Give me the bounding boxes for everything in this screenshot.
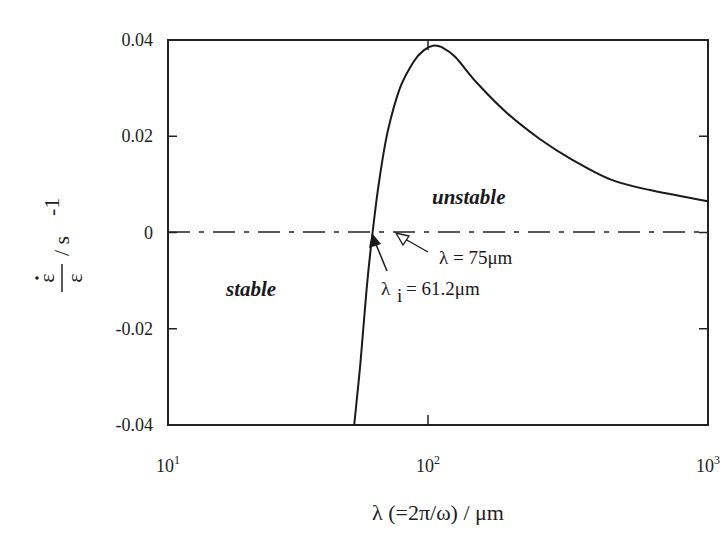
lambda-i-arrow-head-icon: [369, 233, 381, 248]
y-axis-unit: / s: [49, 236, 74, 256]
x-tick-label: 103: [696, 453, 720, 476]
lambda-75-arrow-shaft: [405, 239, 428, 252]
y-axis-unit-exponent: -1: [39, 198, 64, 216]
chart: 0.040.020-0.02-0.04 101102103 unstable s…: [0, 0, 724, 546]
y-tick-label: 0: [144, 223, 153, 243]
x-axis-title: λ (=2π/ω) / μm: [372, 500, 504, 525]
stable-region-label: stable: [225, 277, 276, 301]
lambda-i-label: λ i = 61.2μm: [381, 278, 480, 306]
x-tick-label: 101: [156, 453, 180, 476]
svg-text:i: i: [397, 285, 402, 306]
lambda-75-arrow-head-icon: [396, 233, 409, 245]
lambda-75-label: λ = 75μm: [439, 247, 513, 268]
x-axis-ticks: 101102103: [156, 40, 720, 476]
y-tick-label: 0.04: [122, 30, 154, 50]
lambda-i-arrow-shaft: [375, 242, 387, 271]
dot-accent-icon: [35, 276, 39, 280]
y-axis-denominator: ε: [62, 273, 87, 282]
y-tick-label: 0.02: [122, 126, 154, 146]
unstable-region-label: unstable: [432, 185, 506, 209]
x-tick-label: 102: [416, 453, 440, 476]
svg-text:= 61.2μm: = 61.2μm: [406, 278, 480, 299]
y-axis-title: ε ε / s -1: [34, 198, 87, 292]
svg-text:λ: λ: [381, 278, 391, 299]
y-tick-label: -0.04: [116, 415, 154, 435]
y-tick-label: -0.02: [116, 319, 154, 339]
